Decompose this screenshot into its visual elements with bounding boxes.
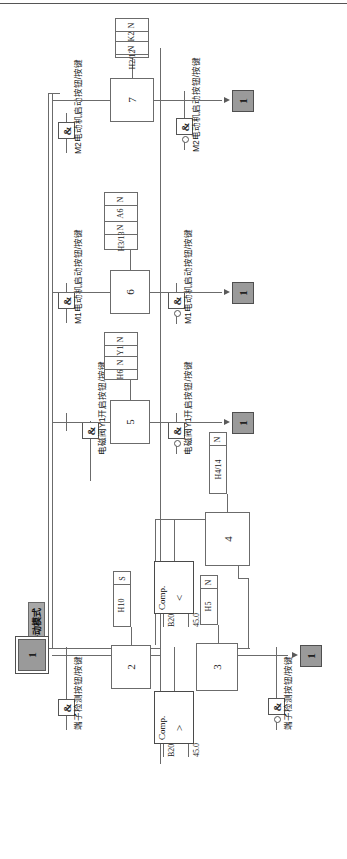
- step-label: 7: [126, 97, 138, 103]
- step-2[interactable]: 2: [111, 645, 151, 689]
- action-qualifier: N: [117, 336, 126, 342]
- terminal-arrow-3: [224, 289, 230, 295]
- cmp2-out-lead: [174, 537, 175, 561]
- action-block-step2[interactable]: S H10: [113, 571, 131, 627]
- step-label: 5: [124, 419, 136, 425]
- comparator2-in1-label: B20: [167, 614, 176, 627]
- return-rail-b: [48, 93, 49, 648]
- terminal-arrow-4: [224, 97, 230, 103]
- action-qualifier: N: [117, 360, 126, 366]
- terminal-step-4[interactable]: 1: [232, 90, 254, 112]
- action-name-cell: H6: [105, 370, 137, 380]
- action-name-cell: Y1: [105, 346, 137, 356]
- terminal-step-2[interactable]: 1: [232, 412, 254, 434]
- branch4-join: [238, 578, 248, 579]
- action-row: N H4/14: [210, 433, 226, 493]
- comparator1-in2-label: 45.0: [192, 743, 201, 757]
- step-5[interactable]: 5: [110, 400, 150, 444]
- step2-action-lead: [131, 627, 132, 645]
- step-label: 1: [237, 420, 249, 426]
- action-name: H2/12: [128, 50, 137, 70]
- gate6-label: M1电动机启动按钮/按键: [181, 229, 193, 324]
- gate1-label: 端子检测按钮/按键: [71, 656, 83, 730]
- step-7[interactable]: 7: [110, 78, 154, 122]
- sfc-diagram: 手动模式 1 & 端子检测按钮/按键 2 S H10: [0, 0, 347, 859]
- terminal-arrow-2: [224, 419, 230, 425]
- action-row: N A6: [105, 193, 137, 221]
- action-name: H6: [117, 369, 126, 379]
- return-rail-a: [52, 93, 53, 648]
- action-name-cell: H10: [114, 585, 130, 626]
- gate6-input-lead: [176, 316, 177, 324]
- comparator-block-name: Comp.: [157, 586, 167, 610]
- gate2-input-lead: [90, 439, 91, 453]
- action-qualifier: N: [205, 579, 214, 585]
- cmp1-out-lead: [174, 665, 175, 691]
- action-qualifier-cell: N: [201, 576, 217, 589]
- action-row: S H10: [114, 572, 130, 626]
- terminal-step-1[interactable]: 1: [300, 645, 322, 667]
- step-label: 6: [124, 289, 136, 295]
- step-label: 1: [237, 290, 249, 296]
- action-qualifier-cell: N: [105, 357, 137, 370]
- step-6[interactable]: 6: [110, 270, 150, 314]
- comparator-operator: >: [173, 725, 185, 731]
- action-name: H5: [205, 602, 214, 612]
- branch4-return-foot: [238, 648, 250, 649]
- action-row: N H6: [105, 356, 137, 380]
- action-row: N K2: [116, 19, 148, 41]
- step-label: 1: [305, 653, 317, 659]
- action-block-step6[interactable]: N A6 N H3/13: [104, 192, 138, 250]
- action-block-step3[interactable]: N H5: [200, 575, 218, 625]
- action-name-cell: H2/12: [116, 55, 148, 64]
- transition-tick-g8: [276, 647, 277, 665]
- main-rail: [160, 48, 161, 764]
- cmp2-in1-lead: [163, 614, 164, 627]
- action-row: N H2/12: [116, 41, 148, 64]
- transition-tick-2: [174, 647, 175, 665]
- comparator2-in2-label: 45.0: [192, 613, 201, 627]
- action-qualifier: N: [117, 196, 126, 202]
- action-qualifier-cell: S: [114, 572, 130, 585]
- action-name: H10: [118, 599, 127, 613]
- cmp2-in2-lead: [188, 614, 189, 627]
- comparator-1[interactable]: Comp. >: [154, 691, 194, 744]
- gate4-label: M2电动机启动按钮/按键: [71, 59, 83, 154]
- terminal-step-3[interactable]: 1: [232, 282, 254, 304]
- action-name-cell: H5: [201, 589, 217, 624]
- rail-to-terminal-1: [238, 655, 288, 656]
- comparator1-in1-label: B20: [167, 744, 176, 757]
- step-4[interactable]: 4: [205, 512, 250, 566]
- transition-tick-3: [174, 519, 175, 537]
- action-qualifier-cell: N: [210, 433, 226, 446]
- step-3[interactable]: 3: [196, 643, 238, 691]
- gate1-lead: [66, 655, 67, 699]
- step-initial-1[interactable]: 1: [15, 636, 49, 674]
- action-qualifier: N: [214, 436, 223, 442]
- action-name: H3/13: [117, 232, 126, 252]
- branch4-return: [248, 578, 249, 648]
- step-label: 4: [222, 536, 234, 542]
- action-name-cell: H3/13: [105, 235, 137, 250]
- gate7-input-lead: [184, 142, 185, 150]
- action-name: K2: [128, 32, 137, 42]
- gate7-label: M2电动机启动按钮/按键: [189, 57, 201, 152]
- action-block-step5[interactable]: N Y1 N H6: [104, 332, 138, 380]
- action-name-cell: A6: [105, 206, 137, 221]
- comparator-block-name: Comp.: [157, 716, 167, 740]
- action-name-cell: K2: [116, 32, 148, 41]
- gate3-label: M1电动机启动按钮/按键: [71, 229, 83, 324]
- action-row: N H5: [201, 576, 217, 624]
- comparator-2[interactable]: Comp. <: [154, 561, 194, 614]
- gate8-input-lead: [276, 722, 277, 730]
- rail-to-terminal-3: [160, 292, 222, 293]
- action-block-step7[interactable]: N K2 N H2/12: [115, 18, 149, 58]
- gate8-lead: [276, 665, 277, 698]
- step5-action-lead: [130, 380, 131, 400]
- action-qualifier-cell: N: [105, 333, 137, 346]
- gate3-input-lead: [66, 309, 67, 323]
- action-block-step4[interactable]: N H4/14: [209, 432, 227, 494]
- gate7-out-lead: [184, 109, 185, 118]
- return-rail-top: [48, 93, 60, 94]
- comparator-operator: <: [173, 595, 185, 601]
